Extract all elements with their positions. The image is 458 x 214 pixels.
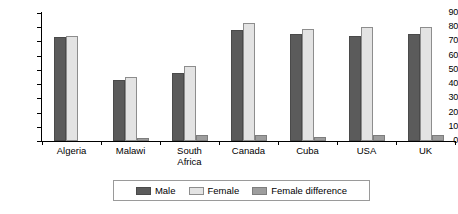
legend-swatch-male xyxy=(136,187,151,195)
bar-group-bars xyxy=(337,13,396,141)
legend-swatch-female xyxy=(189,187,204,195)
category-label-line: South xyxy=(160,146,219,157)
bar-diff xyxy=(314,137,326,141)
x-axis-tick xyxy=(455,141,456,145)
category-label-line: Algeria xyxy=(42,146,101,157)
bar-male xyxy=(113,80,125,141)
x-axis-tick xyxy=(396,141,397,145)
bar-diff xyxy=(373,135,385,141)
bar-female xyxy=(66,36,78,141)
bar-female xyxy=(302,29,314,141)
bar-male xyxy=(231,30,243,141)
x-axis-line xyxy=(41,141,455,142)
category-label-line: Cuba xyxy=(278,146,337,157)
bar-group xyxy=(160,13,219,141)
x-axis-category-label: Cuba xyxy=(278,146,337,157)
bar-diff xyxy=(432,135,444,141)
x-axis-category-label: Canada xyxy=(219,146,278,157)
bar-group-bars xyxy=(396,13,455,141)
legend-item: Male xyxy=(136,186,176,196)
category-label-line: USA xyxy=(337,146,396,157)
bar-chart: 9080706050403020100 AlgeriaMalawiSouthAf… xyxy=(0,0,458,214)
x-axis-tick xyxy=(219,141,220,145)
bar-group xyxy=(101,13,160,141)
x-axis-tick xyxy=(278,141,279,145)
x-axis-category-label: UK xyxy=(396,146,455,157)
legend-swatch-diff xyxy=(252,187,267,195)
legend-label: Female difference xyxy=(271,186,347,196)
bar-female xyxy=(243,23,255,141)
category-label-line: UK xyxy=(396,146,455,157)
bar-female xyxy=(361,27,373,141)
x-axis-category-label: SouthAfrica xyxy=(160,146,219,167)
bar-male xyxy=(290,34,302,141)
category-label-line: Canada xyxy=(219,146,278,157)
bar-male xyxy=(172,73,184,141)
bar-group xyxy=(42,13,101,141)
chart-legend: MaleFemaleFemale difference xyxy=(113,180,370,201)
plot-area xyxy=(42,13,455,141)
category-label-line: Malawi xyxy=(101,146,160,157)
x-axis-category-label: Algeria xyxy=(42,146,101,157)
legend-label: Male xyxy=(155,186,176,196)
bar-group-bars xyxy=(219,13,278,141)
bar-male xyxy=(54,37,66,141)
bar-male xyxy=(408,34,420,141)
x-axis-category-label: USA xyxy=(337,146,396,157)
x-axis-tick xyxy=(42,141,43,145)
x-axis-category-label: Malawi xyxy=(101,146,160,157)
bar-group xyxy=(219,13,278,141)
legend-label: Female xyxy=(208,186,240,196)
bar-group-bars xyxy=(101,13,160,141)
x-axis-tick xyxy=(337,141,338,145)
bar-group-bars xyxy=(42,13,101,141)
category-label-line: Africa xyxy=(160,157,219,168)
x-axis-tick xyxy=(160,141,161,145)
bar-group xyxy=(337,13,396,141)
bar-male xyxy=(349,36,361,141)
bar-diff xyxy=(255,135,267,141)
bar-diff xyxy=(196,135,208,141)
bar-group xyxy=(278,13,337,141)
bar-female xyxy=(125,77,137,141)
bar-diff xyxy=(137,138,149,141)
legend-item: Female xyxy=(189,186,240,196)
bar-group-bars xyxy=(278,13,337,141)
bar-female xyxy=(184,66,196,141)
bar-group xyxy=(396,13,455,141)
x-axis-tick xyxy=(101,141,102,145)
legend-item: Female difference xyxy=(252,186,347,196)
bar-female xyxy=(420,27,432,141)
bar-group-bars xyxy=(160,13,219,141)
